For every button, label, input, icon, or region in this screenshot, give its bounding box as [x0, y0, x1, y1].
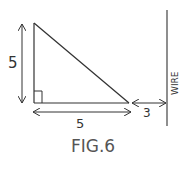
- figure-caption: FIG.6: [71, 136, 115, 156]
- horizontal-side-label: 5: [76, 116, 84, 131]
- gap-label: 3: [143, 106, 151, 120]
- triangle-hypotenuse: [34, 23, 129, 103]
- right-triangle: [34, 23, 129, 103]
- vertical-side-label: 5: [8, 54, 18, 72]
- figure-diagram: 5 5 WIRE 3 FIG.6: [0, 0, 185, 183]
- wire-label: WIRE: [170, 71, 180, 95]
- right-angle-marker: [34, 91, 42, 103]
